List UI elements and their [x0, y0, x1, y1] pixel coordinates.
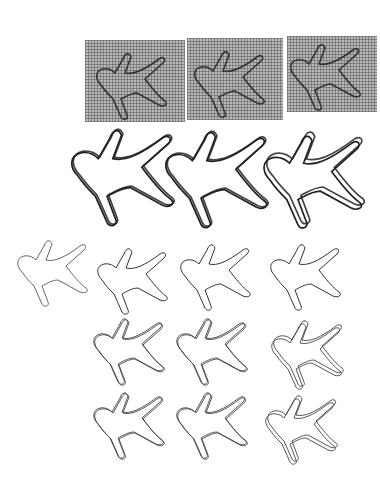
body-outline: [295, 76, 365, 136]
outline-r5-2: [181, 424, 182, 425]
swept-shape-2: [172, 178, 173, 179]
body-outline: [199, 83, 269, 143]
outline-r4-1: [98, 350, 99, 351]
mesh-panel-2: [187, 38, 283, 120]
outline-r3-2: [102, 280, 103, 281]
outline-r3-3: [185, 276, 186, 277]
mesh-panel-1: [85, 40, 185, 122]
outline-r3-4: [275, 276, 276, 277]
swept-shape-3: [270, 180, 271, 181]
swept-shape-1: [78, 176, 79, 177]
outline-r5-1: [98, 424, 99, 425]
outline-r4-2: [181, 350, 182, 351]
outline-r4-3: [276, 355, 277, 356]
outline-r5-3: [270, 430, 271, 431]
mesh-panel-3: [287, 36, 377, 112]
outline-reference: [22, 272, 23, 273]
